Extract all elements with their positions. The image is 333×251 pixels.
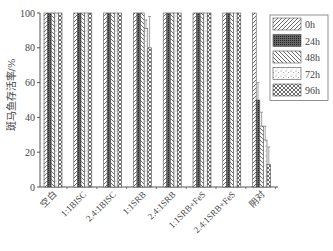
bar-72h [263, 140, 267, 187]
bar-48h [81, 13, 85, 187]
bar-0h [223, 13, 227, 187]
bar-0h [44, 13, 48, 187]
bar-24h [48, 13, 52, 187]
legend-label: 48h [305, 52, 320, 63]
legend-swatch-0h [273, 18, 301, 30]
legend-swatch-96h [273, 84, 301, 96]
bar-72h [204, 13, 208, 187]
y-tick-label: 100 [20, 8, 35, 19]
bar-0h [163, 13, 167, 187]
bar-96h [237, 13, 241, 187]
bar-72h [234, 13, 238, 187]
bar-72h [114, 13, 118, 187]
legend-swatch-24h [273, 35, 301, 47]
bar-96h [118, 13, 122, 187]
x-tick-label: 1:1BISC [59, 189, 88, 218]
legend-label: 96h [305, 85, 320, 96]
bar-24h [107, 13, 111, 187]
bar-96h [58, 13, 62, 187]
bar-0h [133, 13, 137, 187]
x-tick-label: 空白 [38, 189, 59, 210]
bar-0h [104, 13, 108, 187]
bar-48h [200, 13, 204, 187]
legend-label: 72h [305, 69, 320, 80]
bar-24h [137, 13, 141, 187]
x-tick-label: 2.4:1BISC [84, 189, 118, 223]
bar-72h [174, 13, 178, 187]
bar-48h [170, 13, 174, 187]
bar-0h [193, 13, 197, 187]
bar-96h [88, 13, 92, 187]
bar-96h [207, 13, 211, 187]
bar-24h [167, 13, 171, 187]
legend-swatch-48h [273, 51, 301, 63]
bar-96h [267, 164, 271, 187]
legend-label: 0h [305, 19, 315, 30]
bar-24h [197, 13, 201, 187]
bar-48h [141, 13, 145, 187]
y-tick-label: 40 [25, 112, 35, 123]
bar-24h [256, 100, 260, 187]
x-tick-label: 阴对 [247, 189, 268, 210]
bar-96h [178, 13, 182, 187]
bar-48h [111, 13, 115, 187]
x-tick-label: 1:1SRB [121, 189, 148, 216]
bar-24h [77, 13, 81, 187]
bar-24h [226, 13, 230, 187]
bar-48h [51, 13, 55, 187]
bar-72h [85, 13, 89, 187]
legend-label: 24h [305, 36, 320, 47]
y-tick-label: 80 [25, 42, 35, 53]
y-tick-label: 60 [25, 77, 35, 88]
bar-96h [148, 48, 152, 187]
bar-0h [253, 13, 257, 187]
y-tick-label: 20 [25, 147, 35, 158]
legend-swatch-72h [273, 68, 301, 80]
bar-0h [74, 13, 78, 187]
bar-72h [144, 29, 148, 187]
bar-48h [230, 13, 234, 187]
y-tick-label: 0 [30, 182, 35, 193]
bar-72h [55, 13, 59, 187]
bar-chart: 020406080100空白1:1BISC2.4:1BISC1:1SRB2.4:… [0, 0, 333, 251]
bar-48h [260, 126, 264, 187]
